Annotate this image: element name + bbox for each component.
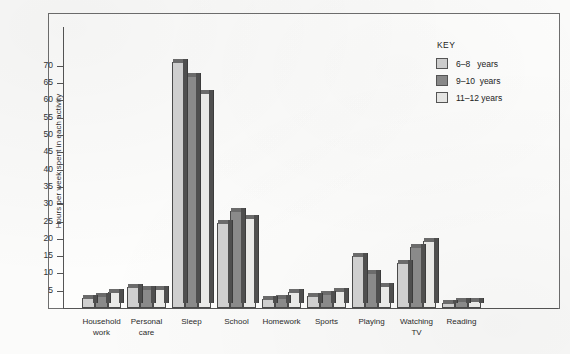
y-axis-tick-label: 30 <box>44 198 53 209</box>
bar <box>217 223 230 308</box>
bar-side-face <box>254 215 259 303</box>
bar-side-face <box>286 295 291 303</box>
y-axis-tick: 45 <box>57 152 64 153</box>
bar-side-face <box>318 293 323 303</box>
bar <box>442 303 455 308</box>
bar <box>262 299 275 308</box>
y-axis-title: Hours per week spent in each activity <box>54 13 68 309</box>
bar-group <box>397 13 436 308</box>
bar <box>307 296 320 308</box>
x-axis-baseline <box>63 308 558 309</box>
bar-group <box>127 13 166 308</box>
bar-side-face <box>228 220 233 303</box>
bar-slot <box>108 13 121 308</box>
bar-slot <box>140 13 153 308</box>
legend-entries: 6–8 years9–10 years11–12 years <box>436 55 502 106</box>
bar-slot <box>262 13 275 308</box>
bar-side-face <box>434 238 439 303</box>
bar-slot <box>172 13 185 308</box>
y-axis-tick-label: 50 <box>44 129 53 140</box>
bar-group <box>307 13 346 308</box>
scanned-page-background: Hours per week spent in each activity 51… <box>0 0 570 354</box>
bar-slot <box>288 13 301 308</box>
bar-side-face <box>389 283 394 303</box>
legend-entry: 9–10 years <box>436 72 502 89</box>
y-axis-tick: 55 <box>57 118 64 119</box>
y-axis-tick-label: 25 <box>44 216 53 227</box>
y-axis-tick: 10 <box>57 273 64 274</box>
bar-side-face <box>209 90 214 303</box>
bar-side-face <box>106 293 111 303</box>
y-axis-tick: 50 <box>57 135 64 136</box>
bar-slot <box>275 13 288 308</box>
legend-swatch <box>436 75 448 86</box>
y-axis-tick-label: 35 <box>44 181 53 192</box>
bar-side-face <box>408 260 413 303</box>
bar-slot <box>333 13 346 308</box>
bar-side-face <box>241 208 246 303</box>
y-axis-tick-label: 70 <box>44 60 53 71</box>
bar <box>82 298 95 308</box>
y-axis-tick: 70 <box>57 66 64 67</box>
bar <box>172 62 185 308</box>
bar-side-face <box>183 59 188 303</box>
legend-entry: 6–8 years <box>436 55 502 72</box>
legend: KEY 6–8 years9–10 years11–12 years <box>436 40 502 106</box>
bar <box>397 263 410 308</box>
bar-group <box>172 13 211 308</box>
x-axis-category-label: Reading <box>433 317 490 328</box>
bar-group <box>217 13 256 308</box>
bar-side-face <box>299 289 304 303</box>
y-axis-tick-label: 40 <box>44 164 53 175</box>
bar-side-face <box>164 286 169 303</box>
y-axis-tick-label: 60 <box>44 94 53 105</box>
bar-side-face <box>453 300 458 303</box>
y-axis-tick-label: 10 <box>44 267 53 278</box>
y-axis-tick-label: 65 <box>44 77 53 88</box>
bar-slot <box>397 13 410 308</box>
y-axis-tick: 30 <box>57 204 64 205</box>
y-axis-tick: 60 <box>57 100 64 101</box>
y-axis-tick-label: 20 <box>44 233 53 244</box>
bar-slot <box>217 13 230 308</box>
y-axis-tick: 25 <box>57 222 64 223</box>
y-axis-tick-label: 15 <box>44 250 53 261</box>
bar-side-face <box>93 295 98 303</box>
bar-side-face <box>376 270 381 303</box>
bar <box>352 256 365 308</box>
bar-chart: Hours per week spent in each activity 51… <box>48 13 560 309</box>
y-axis-tick: 40 <box>57 170 64 171</box>
bar-side-face <box>331 291 336 303</box>
bar-side-face <box>196 73 201 303</box>
bar-side-face <box>363 253 368 303</box>
bar-side-face <box>273 296 278 303</box>
y-axis-tick: 65 <box>57 83 64 84</box>
legend-swatch <box>436 92 448 103</box>
legend-title: KEY <box>436 40 502 50</box>
legend-entry-label: 9–10 years <box>456 76 500 86</box>
y-axis-tick: 20 <box>57 239 64 240</box>
bar-group <box>82 13 121 308</box>
bar-side-face <box>479 298 484 303</box>
legend-entry: 11–12 years <box>436 89 502 106</box>
bar-side-face <box>151 286 156 303</box>
bar-slot <box>378 13 391 308</box>
bar-side-face <box>119 289 124 303</box>
legend-entry-label: 11–12 years <box>456 93 502 103</box>
bar-slot <box>95 13 108 308</box>
bar <box>127 287 140 308</box>
bar-slot <box>320 13 333 308</box>
bar-slot <box>153 13 166 308</box>
bar-side-face <box>466 298 471 303</box>
bar-side-face <box>138 284 143 303</box>
y-axis-tick: 15 <box>57 256 64 257</box>
bar-side-face <box>344 288 349 303</box>
bar-slot <box>127 13 140 308</box>
y-axis-tick: 5 <box>57 291 64 292</box>
y-axis-tick-label: 45 <box>44 146 53 157</box>
bar-slot <box>352 13 365 308</box>
bar-side-face <box>421 244 426 303</box>
legend-entry-label: 6–8 years <box>456 59 498 69</box>
legend-swatch <box>436 58 448 69</box>
bar-slot <box>307 13 320 308</box>
